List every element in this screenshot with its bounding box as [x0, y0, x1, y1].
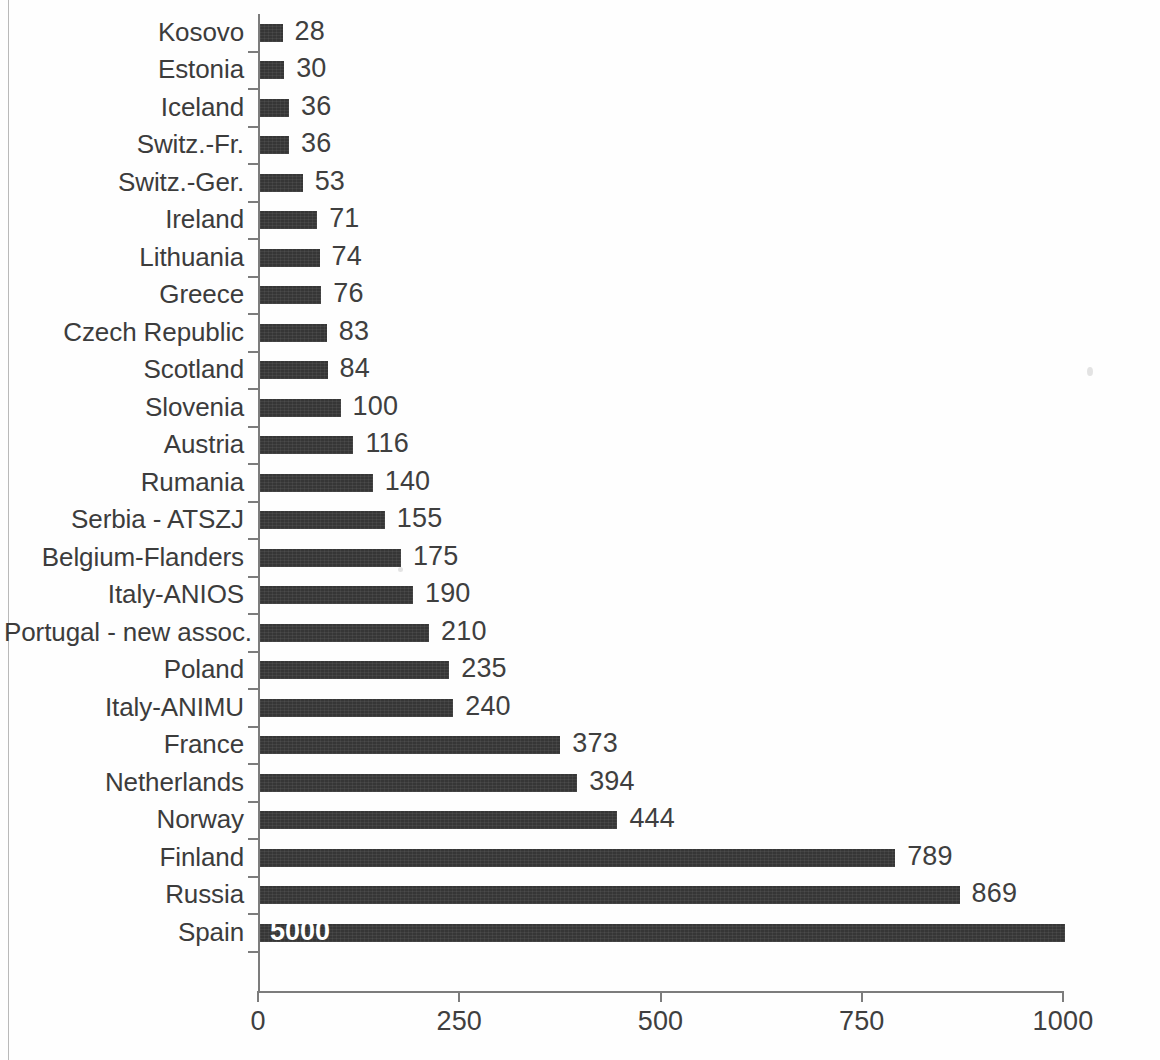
category-label: Portugal - new assoc.	[4, 617, 244, 648]
bar-value-label: 83	[339, 316, 369, 347]
x-axis-tick	[257, 991, 259, 1002]
bar	[260, 849, 895, 867]
bar-row: Scotland84	[0, 352, 1160, 390]
bar	[260, 399, 341, 417]
category-label: Scotland	[4, 354, 244, 385]
bar-value-label: 210	[441, 616, 487, 647]
bar	[260, 324, 327, 342]
category-label: Russia	[4, 879, 244, 910]
bar-row: Estonia30	[0, 52, 1160, 90]
category-label: Slovenia	[4, 392, 244, 423]
category-label: Austria	[4, 429, 244, 460]
bar-row: Poland235	[0, 652, 1160, 690]
bar-row: Austria116	[0, 427, 1160, 465]
bar-value-label: 100	[353, 391, 399, 422]
bar-row: Czech Republic83	[0, 314, 1160, 352]
bar	[260, 924, 1065, 942]
bar-value-label: 76	[333, 278, 363, 309]
bar	[260, 586, 413, 604]
bar	[260, 99, 289, 117]
bar	[260, 361, 328, 379]
bar-value-label: 444	[629, 803, 675, 834]
bar-value-label: 155	[397, 503, 443, 534]
category-label: Norway	[4, 804, 244, 835]
bar-value-label: 789	[907, 841, 953, 872]
bar-row: Iceland36	[0, 89, 1160, 127]
x-axis-tick	[861, 991, 863, 1002]
x-axis-tick	[1062, 991, 1064, 1002]
bar	[260, 511, 385, 529]
bar-row: Belgium-Flanders175	[0, 539, 1160, 577]
bar-row: Greece76	[0, 277, 1160, 315]
category-label: Italy-ANIMU	[4, 692, 244, 723]
bar-value-label: 235	[461, 653, 507, 684]
bar-row: Russia869	[0, 877, 1160, 915]
category-label: Netherlands	[4, 767, 244, 798]
bar-value-label: 30	[296, 53, 326, 84]
bar-row: Rumania140	[0, 464, 1160, 502]
x-axis-tick-label: 0	[250, 1006, 265, 1037]
category-label: Rumania	[4, 467, 244, 498]
bar-value-label: 373	[572, 728, 618, 759]
bar-value-label: 394	[589, 766, 635, 797]
chart-page: 02505007501000Kosovo28Estonia30Iceland36…	[0, 0, 1160, 1060]
category-label: France	[4, 729, 244, 760]
bar	[260, 61, 284, 79]
bar-row: Italy-ANIOS190	[0, 577, 1160, 615]
category-label: Ireland	[4, 204, 244, 235]
bar	[260, 474, 373, 492]
bar	[260, 249, 320, 267]
bar	[260, 24, 283, 42]
bar-value-label: 36	[301, 128, 331, 159]
bar-value-label: 74	[332, 241, 362, 272]
category-label: Greece	[4, 279, 244, 310]
category-label: Spain	[4, 917, 244, 948]
bar-row: Serbia - ATSZJ155	[0, 502, 1160, 540]
bar-value-label: 116	[365, 428, 409, 459]
category-label: Serbia - ATSZJ	[4, 504, 244, 535]
bar-value-label: 53	[315, 166, 345, 197]
category-label: Belgium-Flanders	[4, 542, 244, 573]
bar-value-label: 5000	[270, 916, 330, 947]
bar	[260, 549, 401, 567]
bar-row: Norway444	[0, 802, 1160, 840]
category-label: Lithuania	[4, 242, 244, 273]
bar-row: Netherlands394	[0, 764, 1160, 802]
bar-row: Switz.-Fr.36	[0, 127, 1160, 165]
bar	[260, 286, 321, 304]
bar	[260, 174, 303, 192]
bar	[260, 211, 317, 229]
bar-row: Portugal - new assoc.210	[0, 614, 1160, 652]
bar-row: Switz.-Ger.53	[0, 164, 1160, 202]
category-label: Switz.-Fr.	[4, 129, 244, 160]
category-label: Switz.-Ger.	[4, 167, 244, 198]
bar-value-label: 190	[425, 578, 471, 609]
bar-row: Slovenia100	[0, 389, 1160, 427]
bar	[260, 736, 560, 754]
x-axis-tick-label: 500	[638, 1006, 684, 1037]
bar-row: Italy-ANIMU240	[0, 689, 1160, 727]
bar	[260, 624, 429, 642]
bar-value-label: 36	[301, 91, 331, 122]
bar-row: Ireland71	[0, 202, 1160, 240]
bar-value-label: 84	[340, 353, 370, 384]
bar	[260, 436, 353, 454]
category-label: Finland	[4, 842, 244, 873]
bar-value-label: 140	[385, 466, 431, 497]
bar	[260, 661, 449, 679]
category-label: Iceland	[4, 92, 244, 123]
x-axis-tick	[660, 991, 662, 1002]
bar	[260, 136, 289, 154]
bar-row: France373	[0, 727, 1160, 765]
x-axis-tick	[458, 991, 460, 1002]
category-label: Czech Republic	[4, 317, 244, 348]
category-label: Estonia	[4, 54, 244, 85]
bar-row: Kosovo28	[0, 14, 1160, 52]
bar-value-label: 240	[465, 691, 511, 722]
bar-value-label: 869	[972, 878, 1018, 909]
category-label: Italy-ANIOS	[4, 579, 244, 610]
bar-row: Spain5000	[0, 914, 1160, 952]
bar	[260, 811, 617, 829]
bar-value-label: 175	[413, 541, 459, 572]
category-label: Kosovo	[4, 17, 244, 48]
